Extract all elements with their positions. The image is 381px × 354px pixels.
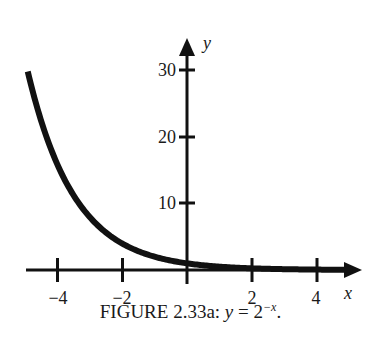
y-axis-label: y [201,33,211,53]
figure-caption: FIGURE 2.33a: y = 2−x. [0,300,381,323]
caption-suffix: . [276,301,281,322]
y-tick-label: 30 [158,60,176,80]
caption-prefix: FIGURE 2.33a: [100,301,225,322]
y-tick-label: 10 [158,193,176,213]
function-curve [28,71,353,269]
y-tick-label: 20 [158,127,176,147]
caption-equals: = 2 [233,301,263,322]
caption-exponent: −x [263,300,276,314]
y-axis-arrow-icon [179,38,195,56]
